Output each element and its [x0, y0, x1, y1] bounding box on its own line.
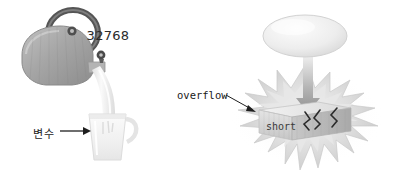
variable-label: 변수 — [33, 125, 54, 141]
short-type-label: short — [266, 121, 296, 132]
overflow-label: overflow — [177, 89, 228, 101]
illustration-canvas: 변수 overflow short 32768 — [0, 0, 394, 183]
kettle-spout-knob-icon — [97, 51, 106, 63]
glass-cup-icon — [89, 114, 136, 160]
bubble-value-label: 32768 — [0, 28, 305, 43]
variable-arrow-icon — [60, 127, 91, 135]
